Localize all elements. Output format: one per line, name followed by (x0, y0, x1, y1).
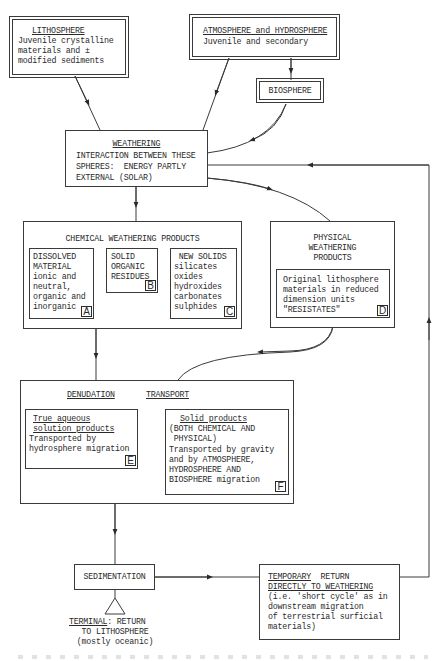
biosphere-title: BIOSPHERE (260, 86, 320, 96)
denudation-transport-box: DENUDATION TRANSPORT True aqueous soluti… (20, 380, 294, 504)
physical-products-box: PHYSICAL WEATHERING PRODUCTS Original li… (270, 221, 395, 328)
solid-products-line: (BOTH CHEMICAL AND (169, 424, 255, 434)
solid-products-line: HYDROSPHERE AND (169, 465, 241, 475)
aqueous-title: solution products (33, 424, 114, 434)
terminal-title-line: TERMINAL: RETURN (69, 617, 145, 627)
weathering-line: SPHERES: ENERGY PARTLY (76, 162, 186, 172)
tag-a: A (81, 306, 92, 317)
resistates-line: materials in reduced (283, 285, 379, 295)
new-solids-line: NEW SOLIDS (174, 252, 227, 262)
physical-title-line: WEATHERING (271, 243, 394, 253)
tag-b: B (145, 280, 156, 291)
tag-c: C (224, 306, 235, 317)
dissolved-line: ionic and (33, 272, 76, 282)
sedimentation-box: SEDIMENTATION (74, 564, 155, 590)
lithosphere-line: modified sediments (18, 56, 104, 66)
lithosphere-title: LITHOSPHERE (32, 26, 85, 36)
terminal-line: TO LITHOSPHERE (68, 627, 162, 637)
atmosphere-box: ATMOSPHERE and HYDROSPHERE Juvenile and … (192, 17, 337, 57)
tag-e: E (125, 455, 136, 466)
tag-f: F (275, 481, 286, 492)
physical-title-line: PRODUCTS (271, 253, 394, 263)
solid-products-line: BIOSPHERE migration (169, 475, 260, 485)
dissolved-line: MATERIAL (33, 262, 71, 272)
new-solids-line: carbonates (174, 292, 222, 302)
temporary-title-line: TEMPORARY RETURN (268, 572, 349, 582)
solid-organic-residues-box: SOLID ORGANIC RESIDUES B (106, 248, 158, 293)
dissolved-line: organic and (33, 292, 86, 302)
temporary-line: (i.e. 'short cycle' as in (268, 592, 387, 602)
resistates-line: "RESISTATES" (283, 305, 340, 315)
lithosphere-line: materials and ± (18, 46, 90, 56)
dissolved-material-box: DISSOLVED MATERIAL ionic and neutral, or… (29, 248, 94, 319)
lithosphere-line: Juvenile crystalline (18, 36, 114, 46)
solid-products-box: Solid products (BOTH CHEMICAL AND PHYSIC… (165, 409, 289, 495)
transport-title: TRANSPORT (146, 390, 189, 400)
aqueous-title: True aqueous (33, 414, 90, 424)
biosphere-box: BIOSPHERE (259, 81, 321, 100)
new-solids-line: oxides (174, 272, 203, 282)
organic-line: ORGANIC (111, 262, 144, 272)
connector-lines (0, 0, 445, 661)
atmosphere-line: Juvenile and secondary (203, 37, 308, 47)
temporary-title-suffix: RETURN (311, 572, 349, 581)
new-solids-box: NEW SOLIDS silicates oxides hydroxides c… (170, 248, 237, 319)
dissolved-line: inorganic (33, 302, 76, 312)
new-solids-line: silicates (174, 262, 217, 272)
solid-products-line: and by ATMOSPHERE, (169, 455, 255, 465)
weathering-title: WEATHERING (66, 139, 207, 149)
dissolved-line: neutral, (33, 282, 71, 292)
terminal-title: TERMINAL (69, 617, 107, 626)
aqueous-line: hydrosphere migration (29, 444, 129, 454)
aqueous-line: Transported by (29, 434, 96, 444)
solid-products-line: Transported by gravity (169, 445, 274, 455)
temporary-line: of terrestrial surficial (268, 612, 383, 622)
temporary-line: DIRECTLY TO WEATHERING (268, 582, 373, 592)
tag-d: D (377, 305, 388, 316)
temporary-title: TEMPORARY (268, 572, 311, 581)
aqueous-solution-box: True aqueous solution products Transport… (25, 409, 138, 469)
new-solids-line: sulphides (174, 302, 217, 312)
dissolved-line: DISSOLVED (33, 252, 76, 262)
physical-title-line: PHYSICAL (271, 233, 394, 243)
terminal-title-suffix: : RETURN (107, 617, 145, 626)
new-solids-line: hydroxides (174, 282, 222, 292)
temporary-line: materials) (268, 622, 316, 632)
chemical-products-title: CHEMICAL WEATHERING PRODUCTS (24, 234, 241, 244)
resistates-line: Original lithosphere (283, 275, 379, 285)
temporary-line: downstream migration (268, 602, 364, 612)
resistates-box: Original lithosphere materials in reduce… (276, 269, 390, 318)
terminal-triangle-icon (105, 598, 125, 614)
solid-products-title: Solid products (180, 414, 247, 424)
chemical-products-box: CHEMICAL WEATHERING PRODUCTS DISSOLVED M… (23, 221, 242, 329)
weathering-line: EXTERNAL (SOLAR) (76, 173, 152, 183)
sedimentation-title: SEDIMENTATION (75, 572, 154, 582)
atmosphere-title: ATMOSPHERE and HYDROSPHERE (203, 26, 327, 36)
lithosphere-box: LITHOSPHERE Juvenile crystalline materia… (12, 19, 126, 75)
terminal-line: (mostly oceanic) (68, 637, 162, 647)
weathering-line: INTERACTION BETWEEN THESE (76, 151, 195, 161)
organic-line: RESIDUES (111, 272, 149, 282)
resistates-line: dimension units (283, 295, 355, 305)
temporary-return-box: TEMPORARY RETURN DIRECTLY TO WEATHERING … (259, 564, 400, 640)
organic-line: SOLID (111, 252, 135, 262)
denudation-title: DENUDATION (67, 390, 115, 400)
solid-products-line: PHYSICAL) (169, 434, 217, 444)
weathering-box: WEATHERING INTERACTION BETWEEN THESE SPH… (65, 130, 208, 187)
cropped-caption-text (18, 655, 428, 659)
